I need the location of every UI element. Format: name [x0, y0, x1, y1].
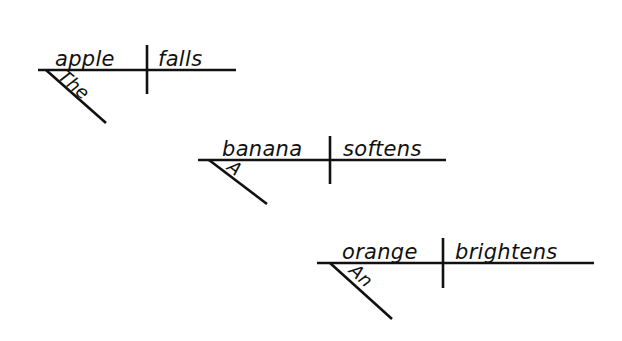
subject-word-3: orange: [342, 240, 418, 264]
predicate-word-3: brightens: [455, 240, 558, 264]
diagram-canvas: apple falls The banana softens A orange …: [0, 0, 622, 341]
sentence-diagram-1: apple falls The: [38, 45, 236, 123]
subject-word-1: apple: [55, 47, 115, 71]
sentence-diagram-svg: apple falls The banana softens A orange …: [0, 0, 622, 341]
sentence-diagram-3: orange brightens An: [317, 238, 594, 319]
predicate-word-1: falls: [158, 47, 202, 71]
sentence-diagram-2: banana softens A: [198, 136, 446, 204]
predicate-word-2: softens: [343, 137, 422, 161]
